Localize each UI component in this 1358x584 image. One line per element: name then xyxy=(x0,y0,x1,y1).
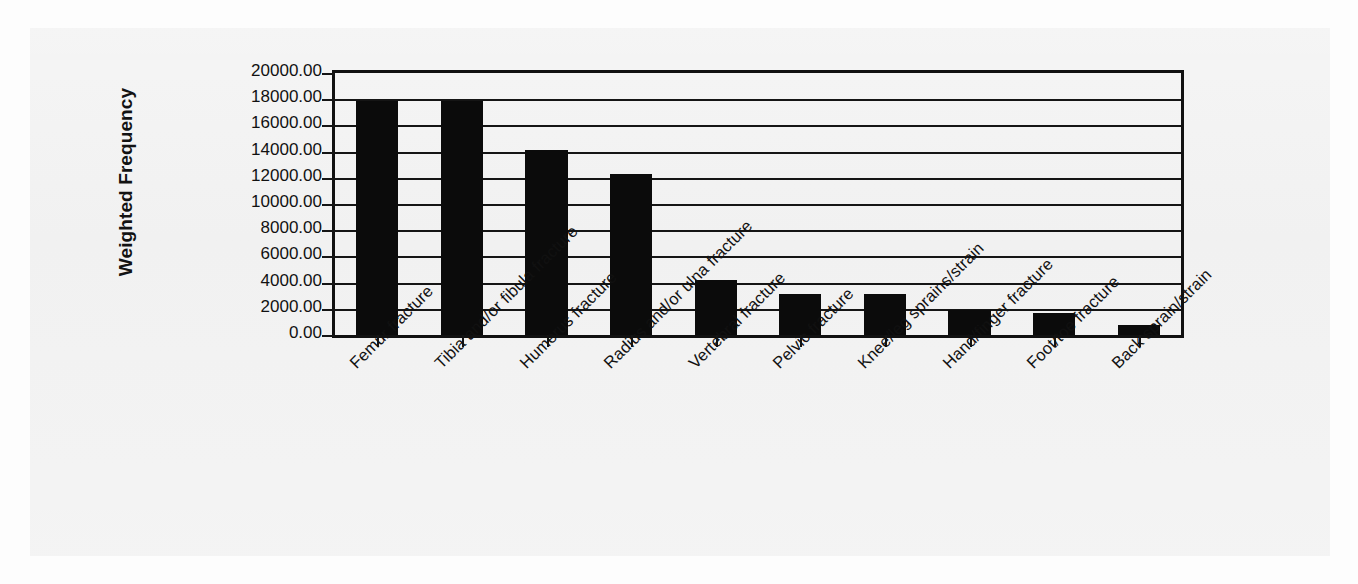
y-axis-tick-label: 16000.00 xyxy=(150,114,322,131)
y-axis-tick-label: 20000.00 xyxy=(150,62,322,79)
chart-page: Weighted Frequency 20000.0018000.0016000… xyxy=(0,0,1358,584)
y-axis-tick-label: 8000.00 xyxy=(150,219,322,236)
y-axis-tick-label: 14000.00 xyxy=(150,141,322,158)
bar xyxy=(610,174,652,335)
y-axis-tick-label: 12000.00 xyxy=(150,167,322,184)
bar xyxy=(356,101,398,335)
x-axis-category-labels: Femur fractureTibia and/or fibula fractu… xyxy=(332,345,1332,525)
bar xyxy=(441,101,483,335)
y-axis-tick-label: 4000.00 xyxy=(150,272,322,289)
y-axis-tick-label: 10000.00 xyxy=(150,193,322,210)
y-axis-tick-label: 2000.00 xyxy=(150,298,322,315)
y-axis-title: Weighted Frequency xyxy=(112,32,140,332)
y-axis-tick-label: 18000.00 xyxy=(150,88,322,105)
y-axis-tick-label: 0.00 xyxy=(150,324,322,341)
y-axis-tick-label: 6000.00 xyxy=(150,245,322,262)
y-axis-tick-labels: 20000.0018000.0016000.0014000.0012000.00… xyxy=(150,60,322,344)
